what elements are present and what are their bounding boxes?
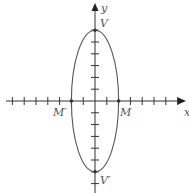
point-marker: [70, 99, 74, 103]
point-label-m: M: [119, 106, 132, 119]
x-axis-label: x: [184, 106, 189, 119]
y-axis-label: y: [100, 2, 108, 15]
y-axis-arrow-icon: [92, 3, 99, 11]
point-marker: [117, 99, 121, 103]
point-label-v-prime: V′: [100, 174, 111, 187]
point-label-m-prime: M′: [52, 106, 67, 119]
point-marker: [93, 28, 97, 32]
point-marker: [93, 170, 97, 174]
ellipse-diagram: y x V V′ M M′: [0, 0, 189, 193]
x-axis-arrow-icon: [178, 98, 186, 105]
point-label-v: V: [100, 17, 109, 30]
